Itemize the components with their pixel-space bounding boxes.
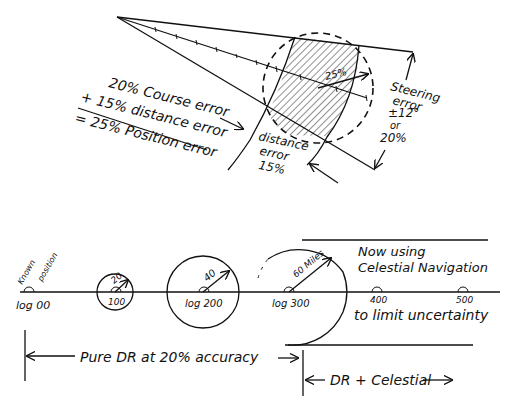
position-error-region — [263, 37, 359, 136]
error-formula: 20% Course error + 15% distance error = … — [73, 74, 232, 160]
position-label-100: 100 — [108, 297, 125, 307]
svg-text:position: position — [35, 251, 59, 284]
radius-label-60: 60 Miles — [291, 248, 326, 280]
pure-dr-label: Pure DR at 20% accuracy — [80, 349, 259, 365]
cone-upper-line — [117, 17, 413, 52]
error-cone-diagram: 25% distance error 15% Steering error ±1… — [73, 17, 442, 183]
position-label-300: log 300 — [272, 298, 310, 309]
dr-celestial-label: DR + Celestial — [330, 372, 431, 388]
svg-text:±12°: ±12° — [388, 106, 419, 120]
steering-error-label: Steering error ±12° or 20% — [380, 79, 442, 145]
position-label-400: 400 — [370, 295, 387, 305]
svg-text:20%: 20% — [380, 131, 407, 145]
svg-text:to limit uncertainty: to limit uncertainty — [354, 307, 489, 323]
dr-track-diagram: 20 40 60 Miles log 00 100 log 200 log 30… — [16, 240, 500, 396]
position-markers — [24, 287, 468, 292]
navigation-error-diagram: 25% distance error 15% Steering error ±1… — [0, 0, 506, 413]
svg-text:Known: Known — [16, 258, 37, 286]
radius-label-20: 20 — [109, 270, 124, 285]
position-label-0: log 00 — [16, 299, 50, 312]
svg-text:or: or — [390, 120, 401, 131]
svg-text:Now using: Now using — [358, 244, 426, 259]
distance-error-label: distance error 15% — [252, 129, 310, 181]
known-position-label: Known position — [16, 251, 60, 286]
steering-arrow-up — [406, 54, 413, 80]
position-label-500: 500 — [456, 295, 473, 305]
celestial-note: Now using Celestial Navigation to limit … — [354, 244, 489, 323]
radius-label-40: 40 — [201, 267, 218, 284]
position-label-200: log 200 — [185, 298, 223, 309]
distance-arrow-right — [310, 164, 338, 183]
svg-text:Celestial Navigation: Celestial Navigation — [358, 260, 488, 275]
steering-arrow-down — [375, 150, 385, 168]
uncertainty-circle-300-dash — [258, 259, 268, 278]
